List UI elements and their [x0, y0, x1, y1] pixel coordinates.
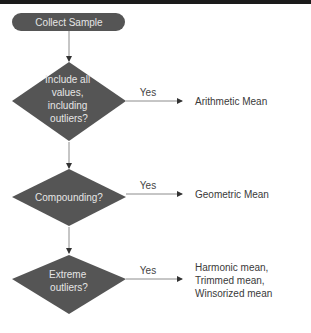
flowchart: Collect Sample Include all values, inclu…: [0, 0, 311, 333]
result-arithmetic-mean: Arithmetic Mean: [195, 96, 267, 107]
decision-include-outliers: Include all values, including outliers?: [12, 62, 126, 141]
decision-compounding: Compounding?: [12, 169, 126, 226]
result-robust-means: Harmonic mean, Trimmed mean, Winsorized …: [195, 262, 272, 299]
yes-label-3: Yes: [140, 265, 156, 276]
decision-extreme-outliers: Extreme outliers?: [12, 255, 126, 314]
result-geometric-mean: Geometric Mean: [195, 189, 269, 200]
yes-label-1: Yes: [140, 87, 156, 98]
decision-2-text: Compounding?: [35, 192, 103, 203]
start-node: Collect Sample: [12, 13, 125, 31]
start-node-label: Collect Sample: [35, 17, 103, 28]
yes-label-2: Yes: [140, 180, 156, 191]
